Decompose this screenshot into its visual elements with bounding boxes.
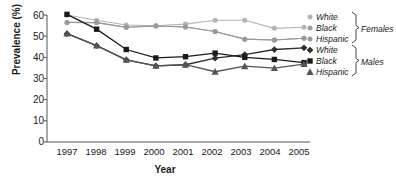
legend-item-males-white[interactable]: White (316, 46, 338, 55)
legend-bracket-layer (352, 12, 359, 76)
legend-item-males-black[interactable]: Black (316, 57, 337, 66)
legend-item-males-hispanic[interactable]: Hispanic (316, 68, 349, 77)
legend-group-females: Females (361, 24, 394, 34)
series-males-black (64, 12, 306, 66)
legend-item-females-white[interactable]: White (316, 13, 338, 22)
legend-group-males: Males (361, 57, 384, 67)
axis-lines (44, 15, 310, 142)
legend-marker-layer (306, 15, 313, 75)
chart-container: Prevalence (%) Year 60 50 40 30 20 10 0 … (0, 0, 396, 186)
legend-item-females-black[interactable]: Black (316, 24, 337, 33)
legend-item-females-hispanic[interactable]: Hispanic (316, 35, 349, 44)
data-series-layer (63, 12, 307, 75)
